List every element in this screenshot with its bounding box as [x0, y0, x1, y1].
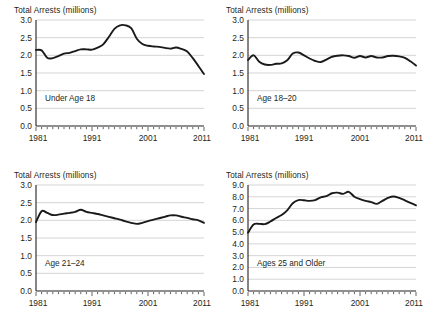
y-axis-tick-label: 1.0 [232, 86, 244, 96]
chart-under-age-18: 0.00.51.01.52.02.53.01981199120012011Und… [0, 0, 211, 164]
x-axis-tick-label: 2011 [405, 133, 423, 143]
chart-ages-25-and-older: 0.01.02.03.04.05.06.07.08.09.01981199120… [212, 165, 423, 329]
data-series-line [36, 25, 204, 74]
x-axis-tick-label: 2011 [193, 133, 211, 143]
y-axis-tick-label: 8.0 [232, 192, 244, 202]
chart-age-21-24: 0.00.51.01.52.02.53.01981199120012011Age… [0, 165, 211, 329]
y-axis-tick-label: 0.0 [232, 121, 244, 131]
y-axis-tick-label: 2.0 [232, 262, 244, 272]
y-axis-tick-label: 3.0 [20, 15, 32, 25]
panel-ages-25-and-older: Total Arrests (millions) 0.01.02.03.04.0… [212, 165, 423, 329]
chart-age-18-20: 0.00.51.01.52.02.53.01981199120012011Age… [212, 0, 423, 164]
y-axis-tick-label: 1.0 [20, 86, 32, 96]
y-axis-tick-label: 0.5 [232, 103, 244, 113]
x-axis-tick-label: 1991 [83, 133, 102, 143]
x-axis-tick-label: 2011 [193, 298, 211, 308]
y-axis-tick-label: 3.0 [20, 180, 32, 190]
series-label: Age 21–24 [45, 259, 85, 268]
y-axis-tick-label: 1.0 [20, 251, 32, 261]
y-axis-tick-label: 4.0 [232, 239, 244, 249]
y-axis-tick-label: 1.0 [232, 274, 244, 284]
y-axis-tick-label: 0.5 [20, 103, 32, 113]
x-axis-tick-label: 1991 [295, 298, 314, 308]
y-axis-tick-label: 1.5 [232, 68, 244, 78]
y-axis-tick-label: 9.0 [232, 180, 244, 190]
series-label: Ages 25 and Older [257, 259, 326, 268]
x-axis-tick-label: 1981 [29, 298, 48, 308]
y-axis-tick-label: 0.0 [20, 286, 32, 296]
series-label: Under Age 18 [45, 94, 96, 103]
y-axis-tick-label: 0.0 [232, 286, 244, 296]
y-axis-tick-label: 2.5 [20, 198, 32, 208]
x-axis-tick-label: 1981 [241, 298, 260, 308]
y-axis-tick-label: 5.0 [232, 227, 244, 237]
x-axis-tick-label: 1991 [83, 298, 102, 308]
x-axis-tick-label: 2001 [139, 133, 158, 143]
y-axis-tick-label: 6.0 [232, 215, 244, 225]
y-axis-tick-label: 3.0 [232, 15, 244, 25]
x-axis-tick-label: 1981 [241, 133, 260, 143]
panel-under-age-18: Total Arrests (millions) 0.00.51.01.52.0… [0, 0, 211, 164]
x-axis-tick-label: 2001 [139, 298, 158, 308]
x-axis-tick-label: 1991 [295, 133, 314, 143]
y-axis-tick-label: 2.0 [20, 215, 32, 225]
data-series-line [36, 210, 204, 224]
panel-age-21-24: Total Arrests (millions) 0.00.51.01.52.0… [0, 165, 211, 329]
y-axis-tick-label: 7.0 [232, 204, 244, 214]
y-axis-tick-label: 2.0 [20, 50, 32, 60]
y-axis-tick-label: 0.0 [20, 121, 32, 131]
y-axis-tick-label: 2.5 [20, 33, 32, 43]
x-axis-tick-label: 2001 [351, 133, 370, 143]
y-axis-tick-label: 3.0 [232, 251, 244, 261]
data-series-line [248, 192, 416, 233]
y-axis-tick-label: 2.5 [232, 33, 244, 43]
y-axis-tick-label: 0.5 [20, 268, 32, 278]
series-label: Age 18–20 [257, 94, 297, 103]
y-axis-tick-label: 2.0 [232, 50, 244, 60]
y-axis-tick-label: 1.5 [20, 68, 32, 78]
panel-age-18-20: Total Arrests (millions) 0.00.51.01.52.0… [212, 0, 423, 164]
data-series-line [248, 52, 416, 65]
x-axis-tick-label: 2011 [405, 298, 423, 308]
x-axis-tick-label: 2001 [351, 298, 370, 308]
x-axis-tick-label: 1981 [29, 133, 48, 143]
arrests-by-age-figure: Total Arrests (millions) 0.00.51.01.52.0… [0, 0, 423, 329]
y-axis-tick-label: 1.5 [20, 233, 32, 243]
